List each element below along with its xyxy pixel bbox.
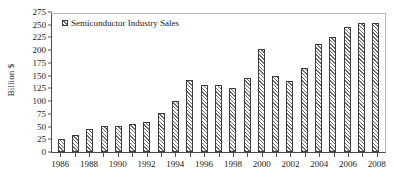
bar-slot: [211, 14, 225, 152]
bar[interactable]: [344, 27, 351, 152]
x-axis-tick-mark: [75, 153, 76, 157]
bar[interactable]: [58, 139, 65, 152]
y-axis-tick-label: 200: [33, 46, 47, 55]
x-axis-tick-mark: [305, 153, 306, 157]
bar-slot: [68, 14, 82, 152]
y-axis-tick-label: 25: [37, 135, 46, 144]
y-axis-title-label: Billion $: [6, 64, 16, 97]
bar-slot: [254, 14, 268, 152]
x-axis-tick-mark: [334, 153, 335, 157]
bar[interactable]: [115, 126, 122, 152]
x-axis-tick-label: 1988: [80, 160, 98, 169]
bar[interactable]: [215, 85, 222, 152]
x-axis-tick-label: 2000: [253, 160, 271, 169]
x-axis-tick-label: 1990: [109, 160, 127, 169]
bar-slot: [197, 14, 211, 152]
bar[interactable]: [129, 124, 136, 152]
bar-slot: [326, 14, 340, 152]
x-axis-tick-mark: [233, 153, 234, 157]
x-axis-tick-mark: [377, 153, 378, 157]
y-axis-tick-labels: 0255075100125150175200225250275: [18, 9, 48, 155]
x-axis-tick-mark: [276, 153, 277, 157]
bar-slot: [125, 14, 139, 152]
x-axis-tick-label: 2006: [339, 160, 357, 169]
x-axis-tick-mark: [132, 153, 133, 157]
x-axis-tick-label: 2008: [368, 160, 386, 169]
bar-slot: [340, 14, 354, 152]
y-axis-tick-label: 150: [33, 71, 47, 80]
y-axis-tick-label: 275: [33, 8, 47, 17]
y-axis-tick-label: 50: [37, 122, 46, 131]
x-axis-tick-mark: [348, 153, 349, 157]
bar[interactable]: [143, 122, 150, 152]
y-axis-tick-label: 125: [33, 84, 47, 93]
bar-slot: [154, 14, 168, 152]
bar[interactable]: [286, 81, 293, 152]
bar[interactable]: [372, 23, 379, 152]
bar-slot: [297, 14, 311, 152]
x-axis-tick-marks: [51, 153, 386, 157]
x-axis-tick-mark: [362, 153, 363, 157]
bar[interactable]: [172, 101, 179, 152]
bar-slot: [54, 14, 68, 152]
x-axis-tick-mark: [161, 153, 162, 157]
y-axis-tick-label: 225: [33, 33, 47, 42]
bar[interactable]: [244, 78, 251, 152]
bar-slot: [168, 14, 182, 152]
x-axis-tick-mark: [118, 153, 119, 157]
bar[interactable]: [186, 80, 193, 152]
x-axis-tick-label: 1992: [138, 160, 156, 169]
bar[interactable]: [358, 23, 365, 152]
bar-slot: [369, 14, 383, 152]
bar[interactable]: [101, 126, 108, 152]
bar-slot: [268, 14, 282, 152]
y-axis-tick-label: 175: [33, 58, 47, 67]
x-axis-tick-label: 1998: [224, 160, 242, 169]
bar[interactable]: [86, 129, 93, 152]
bars-layer: [52, 14, 385, 152]
x-axis-tick-mark: [262, 153, 263, 157]
bar[interactable]: [258, 49, 265, 152]
bar[interactable]: [329, 37, 336, 152]
x-axis-tick-label: 1994: [166, 160, 184, 169]
bar-slot: [354, 14, 368, 152]
bar[interactable]: [272, 76, 279, 152]
y-axis-tick-label: 0: [42, 148, 47, 157]
bar-slot: [183, 14, 197, 152]
x-axis-tick-mark: [147, 153, 148, 157]
x-axis-tick-label: 2002: [281, 160, 299, 169]
y-axis-tick-label: 75: [37, 109, 46, 118]
x-axis-tick-mark: [190, 153, 191, 157]
bar[interactable]: [201, 85, 208, 152]
plot-area: [51, 13, 386, 153]
x-axis-tick-label: 2004: [310, 160, 328, 169]
x-axis-tick-mark: [319, 153, 320, 157]
x-axis-tick-mark: [175, 153, 176, 157]
x-axis-tick-mark: [219, 153, 220, 157]
x-axis-tick-label: 1996: [195, 160, 213, 169]
bar-slot: [97, 14, 111, 152]
x-axis-tick-mark: [103, 153, 104, 157]
bar-slot: [283, 14, 297, 152]
bar-slot: [111, 14, 125, 152]
bar[interactable]: [315, 44, 322, 152]
x-axis-tick-mark: [247, 153, 248, 157]
bar-slot: [83, 14, 97, 152]
x-axis-tick-labels: 1986198819901992199419961998200020022004…: [51, 160, 386, 174]
bar[interactable]: [72, 135, 79, 152]
bar[interactable]: [301, 68, 308, 152]
bar-slot: [240, 14, 254, 152]
bar[interactable]: [158, 113, 165, 152]
x-axis-tick-mark: [60, 153, 61, 157]
y-axis-tick-label: 250: [33, 20, 47, 29]
bar[interactable]: [229, 88, 236, 152]
x-axis-tick-mark: [204, 153, 205, 157]
legend-item-label: Semiconductor Industry Sales: [71, 18, 179, 28]
bar-slot: [226, 14, 240, 152]
legend-swatch-icon: [62, 20, 68, 26]
y-axis-tick-label: 100: [33, 97, 47, 106]
x-axis-tick-label: 1986: [51, 160, 69, 169]
semiconductor-sales-bar-chart: Billion $ 025507510012515017520022525027…: [0, 0, 394, 187]
bar-slot: [140, 14, 154, 152]
chart-legend: Semiconductor Industry Sales: [62, 18, 179, 28]
